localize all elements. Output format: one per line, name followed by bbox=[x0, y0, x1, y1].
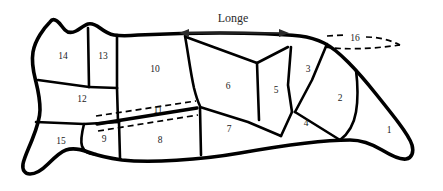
region-label-9: 9 bbox=[102, 134, 107, 144]
region-label-7: 7 bbox=[227, 124, 232, 134]
region-label-3: 3 bbox=[306, 64, 311, 74]
region-label-16: 16 bbox=[350, 33, 360, 43]
region-label-15: 15 bbox=[56, 136, 66, 146]
dashed-line-16-upper bbox=[327, 35, 345, 36]
region-label-2: 2 bbox=[338, 93, 343, 103]
longe-label: Longe bbox=[218, 11, 249, 25]
cut-line-8-7 bbox=[200, 108, 201, 155]
region-label-10: 10 bbox=[150, 64, 160, 74]
cut-line-10-8 bbox=[117, 88, 118, 122]
region-label-8: 8 bbox=[158, 135, 163, 145]
dashed-line-16-tail-top bbox=[366, 37, 400, 45]
region-label-4: 4 bbox=[304, 118, 309, 128]
region-label-13: 13 bbox=[98, 51, 108, 61]
region-label-1: 1 bbox=[387, 125, 392, 135]
longe-annotation: Longe bbox=[179, 11, 289, 37]
region-label-12: 12 bbox=[77, 94, 87, 104]
region-label-11: 11 bbox=[153, 105, 162, 115]
region-label-5: 5 bbox=[274, 85, 279, 95]
cut-line-13-12 bbox=[89, 87, 117, 88]
region-label-14: 14 bbox=[58, 51, 68, 61]
region-label-6: 6 bbox=[226, 81, 231, 91]
cut-line-14-13 bbox=[88, 28, 89, 87]
dashed-line-16-tail-bottom bbox=[325, 45, 400, 49]
carcass-diagram-svg: Longe 1 2 3 4 5 6 7 8 9 10 11 12 13 14 1… bbox=[0, 0, 443, 191]
carcass-diagram: Longe 1 2 3 4 5 6 7 8 9 10 11 12 13 14 1… bbox=[0, 0, 443, 191]
